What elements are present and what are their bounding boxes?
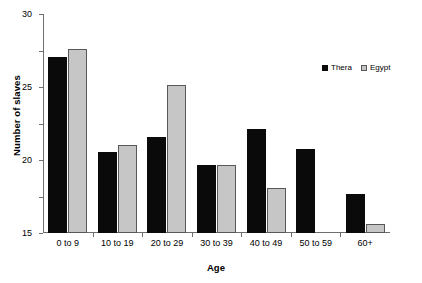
bar-thera: [247, 129, 266, 233]
y-axis-title: Number of slaves: [11, 56, 22, 176]
x-tick-label: 60+: [358, 238, 373, 248]
bar-thera: [98, 152, 117, 233]
bar-group: [147, 14, 186, 233]
bar-egypt: [366, 224, 385, 233]
legend-entry-egypt: Egypt: [361, 63, 390, 72]
y-tick-mark: 15: [39, 124, 43, 125]
bar-egypt: [267, 188, 286, 233]
bar-thera: [147, 137, 166, 233]
bar-thera: [48, 57, 67, 233]
y-tick-mark: 10: [39, 160, 43, 161]
y-tick-label: 25: [22, 82, 32, 92]
y-tick-mark: 20: [39, 87, 43, 88]
legend-swatch-thera-icon: [322, 65, 328, 71]
bar-group: [346, 14, 385, 233]
y-tick-label: 30: [22, 9, 32, 19]
legend-entry-thera: Thera: [322, 63, 352, 72]
bar-group: [247, 14, 286, 233]
x-tick-mark: [192, 233, 193, 237]
bar-egypt: [118, 145, 137, 233]
x-tick-mark: [291, 233, 292, 237]
x-tick-mark: [340, 233, 341, 237]
y-tick-label: 20: [22, 155, 32, 165]
bar-chart: Number of slaves Age 051015202530 0 to 9…: [0, 0, 422, 283]
y-tick-label: 15: [22, 228, 32, 238]
bar-egypt: [167, 85, 186, 233]
y-tick-mark: 30: [39, 14, 43, 15]
y-tick-mark: 25: [39, 51, 43, 52]
chart-legend: Thera Egypt: [322, 63, 390, 72]
x-tick-label: 40 to 49: [250, 238, 283, 248]
x-tick-mark: [142, 233, 143, 237]
bar-thera: [296, 149, 315, 233]
bar-group: [48, 14, 87, 233]
legend-swatch-egypt-icon: [361, 65, 367, 71]
bar-group: [98, 14, 137, 233]
plot-area: 051015202530 0 to 910 to 1920 to 2930 to…: [43, 14, 390, 233]
x-tick-label: 50 to 59: [299, 238, 332, 248]
x-tick-mark: [241, 233, 242, 237]
x-tick-label: 0 to 9: [57, 238, 80, 248]
bar-group: [197, 14, 236, 233]
x-tick-mark: [93, 233, 94, 237]
bar-thera: [346, 194, 365, 233]
x-tick-label: 30 to 39: [200, 238, 233, 248]
y-tick-mark: 5: [39, 197, 43, 198]
legend-label-thera: Thera: [331, 63, 352, 72]
x-tick-label: 20 to 29: [151, 238, 184, 248]
bar-egypt: [217, 165, 236, 233]
bar-egypt: [68, 49, 87, 233]
legend-label-egypt: Egypt: [370, 63, 390, 72]
bar-thera: [197, 165, 216, 233]
y-tick-mark: 0: [39, 233, 43, 234]
x-tick-label: 10 to 19: [101, 238, 134, 248]
x-axis-title: Age: [42, 262, 390, 273]
bar-group: [296, 14, 335, 233]
y-axis-line: [43, 14, 44, 233]
